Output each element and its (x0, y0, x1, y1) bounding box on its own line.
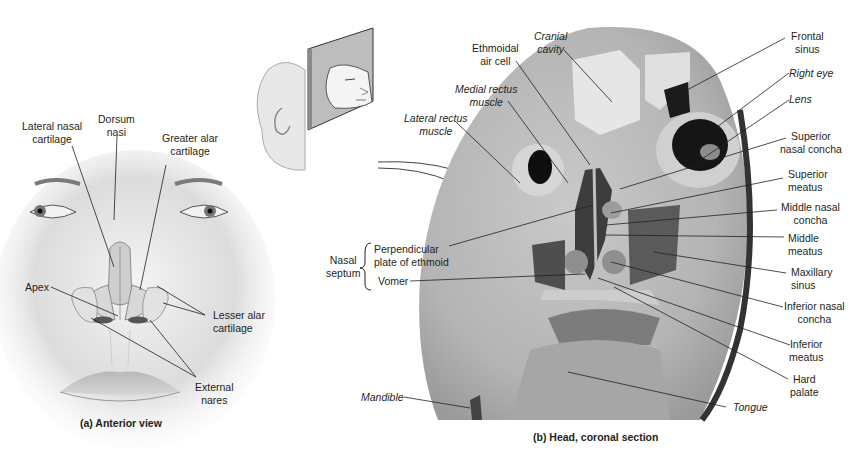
coronal-plane-inset (257, 28, 462, 186)
face-on-plane (326, 65, 372, 109)
label-lateral-nasal-cartilage: Lateral nasal cartilage (22, 120, 82, 145)
caption-coronal-section: (b) Head, coronal section (533, 431, 658, 443)
label-greater-alar-cartilage: Greater alar cartilage (162, 132, 218, 157)
label-inferior-meatus: Inferior meatus (789, 338, 823, 363)
label-inferior-nasal-concha: Inferior nasal concha (784, 300, 845, 325)
inferior-concha-shape (602, 250, 626, 274)
lens-region (700, 144, 720, 160)
label-nasal-septum: Nasal septum (326, 254, 360, 279)
anterior-face-illustration (0, 150, 275, 450)
label-medial-rectus-muscle: Medial rectus muscle (455, 83, 517, 108)
middle-concha-shape (602, 201, 622, 219)
label-superior-nasal-concha: Superior nasal concha (780, 130, 842, 155)
label-maxillary-sinus: Maxillary sinus (791, 266, 832, 291)
right-naris (128, 317, 148, 324)
label-lesser-alar-cartilage: Lesser alar cartilage (213, 309, 265, 334)
label-tongue: Tongue (733, 401, 768, 414)
label-superior-meatus: Superior meatus (788, 168, 828, 193)
label-mandible: Mandible (361, 391, 404, 404)
label-middle-meatus: Middle meatus (788, 232, 822, 257)
label-ethmoidal-air-cell: Ethmoidal air cell (472, 42, 519, 67)
label-cranial-cavity: Cranial cavity (534, 30, 567, 55)
label-vomer: Vomer (378, 275, 408, 288)
right-eye-globe (672, 119, 728, 171)
label-external-nares: External nares (195, 381, 234, 406)
left-naris (93, 317, 113, 324)
tongue-region (510, 340, 670, 420)
label-lateral-rectus-muscle: Lateral rectus muscle (404, 112, 468, 137)
label-right-eye: Right eye (789, 67, 833, 80)
nasal-septum-brace (360, 243, 371, 290)
label-apex: Apex (25, 281, 49, 294)
label-perpendicular-plate-of-ethmoid: Perpendicular plate of ethmoid (374, 243, 449, 268)
oral-cavity (548, 309, 660, 345)
figure-illustrations (0, 0, 865, 464)
cranial-cavity-region (572, 50, 640, 135)
label-lens: Lens (789, 93, 812, 106)
caption-anterior-view: (a) Anterior view (80, 417, 162, 429)
head-back (257, 63, 305, 171)
label-middle-nasal-concha: Middle nasal concha (781, 201, 840, 226)
label-frontal-sinus: Frontal sinus (791, 30, 824, 55)
label-hard-palate: Hard palate (790, 373, 819, 398)
label-dorsum-nasi: Dorsum nasi (98, 113, 135, 138)
septum (594, 165, 596, 270)
